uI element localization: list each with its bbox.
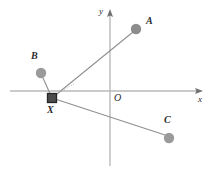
point-b-marker	[36, 68, 46, 78]
diagram-canvas	[0, 0, 214, 172]
axes-group	[10, 9, 203, 166]
connectors-group	[43, 32, 165, 135]
x-axis-label: x	[198, 95, 202, 104]
point-c-label: C	[164, 115, 171, 125]
segment-x-to-a	[52, 32, 133, 98]
point-x-label: X	[47, 105, 54, 115]
points-group	[36, 24, 174, 143]
segment-x-to-c	[52, 98, 165, 135]
point-a-label: A	[146, 16, 153, 26]
origin-label: O	[114, 93, 121, 103]
point-c-marker	[164, 133, 174, 143]
point-x-marker	[48, 94, 57, 103]
point-b-label: B	[31, 51, 38, 61]
y-axis-label: y	[99, 7, 103, 16]
point-a-marker	[131, 24, 141, 34]
geometry-diagram: A B C X O x y	[0, 0, 214, 172]
